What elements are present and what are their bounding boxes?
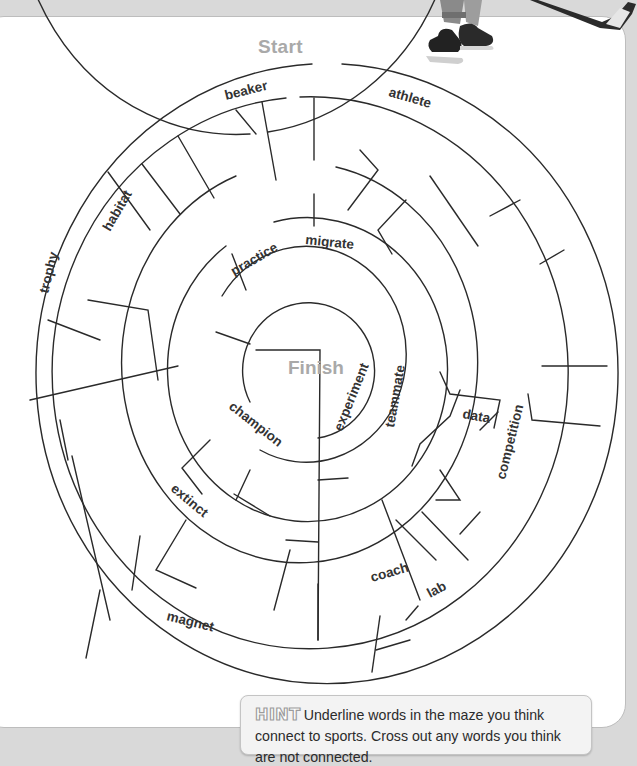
word-practice: practice bbox=[228, 239, 281, 278]
maze-start-label: Start bbox=[258, 36, 303, 58]
word-migrate: migrate bbox=[305, 232, 356, 252]
word-data: data bbox=[461, 406, 491, 426]
hint-box: HINTUnderline words in the maze you thin… bbox=[240, 695, 592, 755]
maze-finish-label: Finish bbox=[288, 357, 344, 379]
word-extinct: extinct bbox=[168, 481, 211, 521]
word-trophy: trophy bbox=[36, 250, 61, 295]
word-magnet: magnet bbox=[165, 608, 216, 634]
word-teammate: teammate bbox=[382, 363, 408, 428]
word-athlete: athlete bbox=[387, 84, 433, 111]
word-coach: coach bbox=[369, 560, 411, 585]
word-habitat: habitat bbox=[100, 187, 135, 233]
maze-word-labels: beaker athlete habitat trophy practice m… bbox=[36, 78, 526, 635]
word-champion: champion bbox=[226, 399, 285, 450]
hint-badge: HINT bbox=[255, 704, 301, 725]
word-lab: lab bbox=[424, 578, 448, 600]
word-competition: competition bbox=[493, 403, 526, 481]
hint-paragraph: HINTUnderline words in the maze you thin… bbox=[255, 704, 583, 766]
maze-walls bbox=[17, 0, 618, 684]
